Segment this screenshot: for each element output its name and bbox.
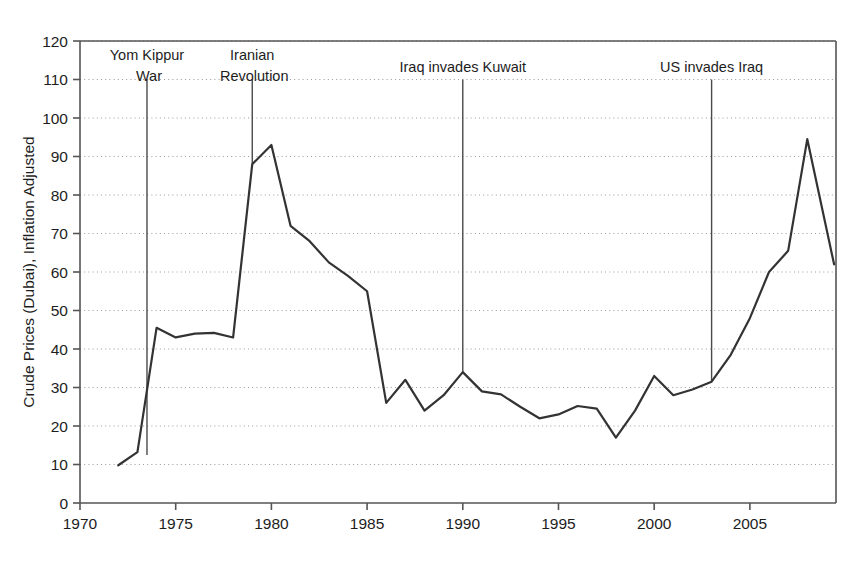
- gridlines: [80, 41, 836, 465]
- x-tick-label: 1980: [254, 515, 289, 532]
- annotation-label: Iraq invades Kuwait: [400, 59, 527, 75]
- x-tick-label: 1995: [541, 515, 575, 532]
- y-tick-label: 100: [42, 110, 68, 127]
- y-tick-label: 110: [43, 71, 68, 88]
- y-tick-label: 0: [59, 495, 68, 512]
- chart-figure: 0102030405060708090100110120197019751980…: [0, 0, 867, 563]
- y-tick-label: 70: [51, 225, 69, 242]
- y-axis-title: Crude Prices (Dubai), Inflation Adjusted: [20, 136, 37, 407]
- annotation-label: Iranian: [230, 47, 274, 63]
- y-tick-label: 40: [51, 341, 69, 358]
- annotations: Yom KippurWarIranianRevolutionIraq invad…: [110, 47, 763, 455]
- x-tick-label: 1970: [63, 515, 98, 532]
- annotation-label-line2: War: [136, 68, 162, 84]
- y-tick-label: 120: [42, 33, 68, 50]
- x-tick-label: 2005: [733, 515, 767, 532]
- y-tick-label: 50: [51, 302, 69, 319]
- annotation-label-line2: Revolution: [220, 68, 289, 84]
- crude-price-line-chart: 0102030405060708090100110120197019751980…: [0, 0, 867, 563]
- x-tick-label: 2000: [637, 515, 672, 532]
- y-tick-label: 80: [51, 187, 69, 204]
- y-tick-label: 20: [51, 418, 69, 435]
- y-tick-label: 30: [51, 379, 69, 396]
- x-tick-label: 1985: [350, 515, 384, 532]
- y-axis: 0102030405060708090100110120: [42, 33, 80, 512]
- y-tick-label: 60: [51, 264, 69, 281]
- y-tick-label: 90: [51, 148, 69, 165]
- annotation-label: Yom Kippur: [110, 47, 185, 63]
- x-tick-label: 1975: [158, 515, 192, 532]
- annotation-label: US invades Iraq: [660, 59, 763, 75]
- y-tick-label: 10: [51, 456, 69, 473]
- data-series-line: [118, 139, 834, 465]
- x-tick-label: 1990: [446, 515, 481, 532]
- x-axis: 19701975198019851990199520002005: [63, 503, 767, 532]
